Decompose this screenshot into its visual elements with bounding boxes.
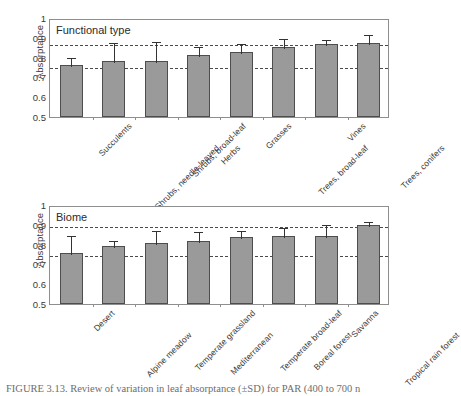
error-bar xyxy=(71,236,72,255)
error-bar xyxy=(199,232,200,243)
error-bar-cap xyxy=(67,58,76,59)
bar-series-functional xyxy=(50,20,388,117)
bar-group xyxy=(102,207,125,304)
y-tick-biome-4: 0.6 xyxy=(33,280,46,289)
bar xyxy=(102,61,125,117)
figure-caption: FIGURE 3.13. Review of variation in leaf… xyxy=(6,383,398,396)
error-bar xyxy=(369,35,370,44)
error-bar xyxy=(199,47,200,58)
error-bar-cap xyxy=(152,42,161,43)
x-axis-category-labels-biome: DesertAlpine meadowTemperate grasslandMe… xyxy=(49,306,389,381)
bar xyxy=(315,44,338,117)
bar xyxy=(272,47,295,117)
plot-area-functional: Functional type xyxy=(49,19,389,118)
category-label: Succulents xyxy=(97,121,134,158)
error-bar-cap xyxy=(237,44,246,45)
bar-group xyxy=(315,207,338,304)
category-label: Trees, broad-leaf xyxy=(316,143,370,197)
x-axis-category-labels-functional: SucculentsShrubs, needle-leavedShrubs, b… xyxy=(49,119,389,189)
bar xyxy=(187,55,210,117)
error-bar-cap xyxy=(194,232,203,233)
error-bar xyxy=(326,225,327,238)
bar-group xyxy=(60,20,83,117)
bar-group xyxy=(357,20,380,117)
error-bar-cap xyxy=(279,39,288,40)
error-bar-cap xyxy=(364,222,373,223)
y-tick-functional-3: 0.7 xyxy=(33,73,46,82)
y-tick-functional-5: 0.5 xyxy=(33,113,46,122)
y-tick-biome-5: 0.5 xyxy=(33,300,46,309)
bar-group xyxy=(272,207,295,304)
y-tick-biome-0: 1 xyxy=(41,201,46,210)
bar-group xyxy=(315,20,338,117)
bar xyxy=(60,65,83,117)
y-tick-functional-0: 1 xyxy=(41,14,46,23)
error-bar xyxy=(156,231,157,245)
bar-group xyxy=(187,20,210,117)
bar-group xyxy=(102,20,125,117)
bar xyxy=(187,241,210,304)
bar xyxy=(60,253,83,304)
bar-group xyxy=(187,207,210,304)
bar-group xyxy=(145,20,168,117)
error-bar xyxy=(71,58,72,67)
error-bar-cap xyxy=(67,236,76,237)
error-bar-cap xyxy=(109,241,118,242)
category-label: Tropical rain forest xyxy=(403,330,461,388)
error-bar-cap xyxy=(152,231,161,232)
bar xyxy=(145,243,168,304)
error-bar xyxy=(241,44,242,54)
error-bar-cap xyxy=(237,231,246,232)
y-tick-functional-4: 0.6 xyxy=(33,93,46,102)
error-bar-cap xyxy=(322,40,331,41)
bar-series-biome xyxy=(50,207,388,304)
category-label: Vines xyxy=(346,121,368,143)
y-tick-functional-2: 0.8 xyxy=(33,54,46,63)
error-bar xyxy=(284,228,285,238)
error-bar xyxy=(241,231,242,239)
bar-group xyxy=(357,207,380,304)
bar-group xyxy=(272,20,295,117)
bar xyxy=(230,52,253,117)
plot-area-biome: Biome xyxy=(49,206,389,305)
error-bar xyxy=(114,43,115,62)
error-bar-cap xyxy=(109,43,118,44)
y-tick-functional-1: 0.9 xyxy=(33,34,46,43)
bar xyxy=(102,246,125,304)
bar xyxy=(357,43,380,117)
category-label: Savanna xyxy=(349,308,380,339)
category-label: Trees, conifers xyxy=(399,143,447,191)
y-tick-biome-3: 0.7 xyxy=(33,260,46,269)
category-label: Desert xyxy=(92,308,117,333)
error-bar xyxy=(156,42,157,63)
bar xyxy=(315,236,338,304)
error-bar-cap xyxy=(279,228,288,229)
bar-group xyxy=(230,20,253,117)
error-bar-cap xyxy=(194,47,203,48)
chart-panel-biome: Absorptance 10.90.80.70.60.5 Biome Deser… xyxy=(0,190,401,386)
bar-group xyxy=(145,207,168,304)
bar xyxy=(230,237,253,304)
y-tick-biome-2: 0.8 xyxy=(33,241,46,250)
error-bar xyxy=(284,39,285,49)
category-label: Alpine meadow xyxy=(144,330,193,379)
bar xyxy=(145,61,168,117)
y-tick-biome-1: 0.9 xyxy=(33,221,46,230)
error-bar-cap xyxy=(364,35,373,36)
bar xyxy=(272,236,295,304)
bar-group xyxy=(60,207,83,304)
error-bar xyxy=(114,241,115,248)
category-label: Grasses xyxy=(264,121,294,151)
error-bar-cap xyxy=(322,225,331,226)
bar xyxy=(357,225,380,304)
bar-group xyxy=(230,207,253,304)
chart-panel-functional-type: Absorptance 10.90.80.70.60.5 Functional … xyxy=(0,6,401,191)
